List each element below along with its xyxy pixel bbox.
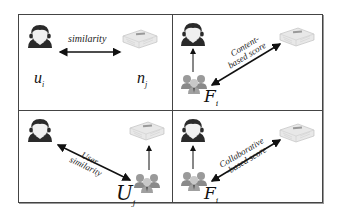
news-symbol: n — [137, 69, 145, 86]
newspaper-icon — [123, 30, 157, 48]
news-subscript: j — [145, 80, 147, 89]
user-icon — [181, 119, 205, 142]
group-symbol: U — [116, 181, 133, 205]
group-subscript: j — [133, 198, 135, 207]
newspaper-icon — [280, 124, 314, 142]
users-uj-label: Uj — [116, 183, 135, 207]
user-ui-label: ui — [34, 70, 44, 89]
similarity-label: similarity — [68, 34, 106, 44]
group-subscript: i — [216, 99, 219, 108]
friends-fi-label: Fi — [204, 88, 218, 108]
group-symbol: F — [204, 183, 216, 203]
user-icon — [28, 119, 52, 142]
friends-fi-label: Fi — [204, 185, 218, 205]
group-icon — [134, 174, 160, 193]
news-nj-label: nj — [137, 70, 147, 89]
group-symbol: F — [204, 86, 216, 106]
user-subscript: i — [42, 80, 44, 89]
newspaper-icon — [280, 28, 314, 46]
user-icon — [28, 25, 52, 48]
user-icon — [181, 23, 205, 46]
newspaper-icon — [130, 122, 164, 140]
group-subscript: i — [216, 196, 219, 205]
diagram-graphics — [0, 0, 338, 217]
user-symbol: u — [34, 69, 42, 86]
